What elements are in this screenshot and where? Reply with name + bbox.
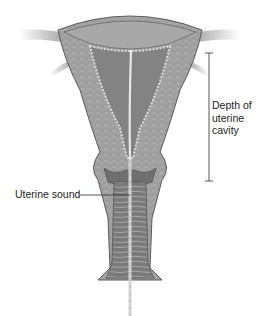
depth-label-line-1: Depth of [212, 99, 258, 112]
depth-label-line-2: uterine [212, 112, 258, 125]
depth-of-uterine-cavity-label: Depth of uterine cavity [212, 99, 258, 137]
uterine-sound-instrument [130, 50, 131, 316]
uterus-illustration [0, 0, 259, 316]
uterine-sound-label: Uterine sound [15, 188, 80, 201]
depth-label-line-3: cavity [212, 124, 258, 137]
